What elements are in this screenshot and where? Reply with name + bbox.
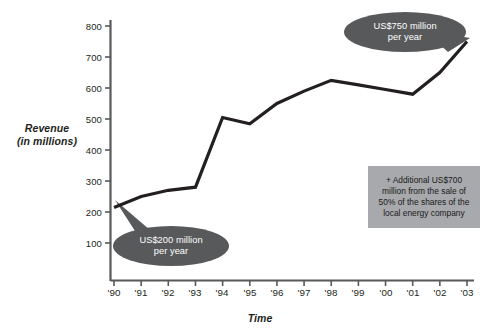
y-tick-label-800: 800 xyxy=(74,21,102,32)
x-tick-label-95: '95 xyxy=(237,287,263,298)
x-tick-label-91: '91 xyxy=(128,287,154,298)
callout-low-label: US$200 million per year xyxy=(113,227,229,265)
note-line4: local energy company xyxy=(379,208,470,219)
y-tick-label-300: 300 xyxy=(74,176,102,187)
y-tick-label-200: 200 xyxy=(74,207,102,218)
x-tick-label-00: '00 xyxy=(373,287,399,298)
x-tick-label-03: '03 xyxy=(454,287,480,298)
note-line2: million from the sale of xyxy=(379,186,470,197)
callout-low-line2: per year xyxy=(139,246,202,258)
additional-revenue-note: + Additional US$700 million from the sal… xyxy=(368,166,480,228)
note-line1: + Additional US$700 xyxy=(379,175,470,186)
y-tick-label-700: 700 xyxy=(74,52,102,63)
y-tick-label-100: 100 xyxy=(74,238,102,249)
x-tick-label-96: '96 xyxy=(264,287,290,298)
x-tick-label-94: '94 xyxy=(209,287,235,298)
y-tick-label-600: 600 xyxy=(74,83,102,94)
revenue-line-chart: 800 700 600 500 400 300 200 100 '90 '91 … xyxy=(0,0,498,332)
x-tick-label-93: '93 xyxy=(182,287,208,298)
x-tick-label-92: '92 xyxy=(155,287,181,298)
callout-low-line1: US$200 million xyxy=(139,235,202,247)
x-axis-title: Time xyxy=(230,312,290,324)
y-axis-title-line1: Revenue xyxy=(8,122,86,135)
x-tick-label-02: '02 xyxy=(427,287,453,298)
y-axis-title: Revenue (in millions) xyxy=(8,122,86,148)
y-axis-title-line2: (in millions) xyxy=(8,135,86,148)
x-tick-label-01: '01 xyxy=(400,287,426,298)
callout-high-label: US$750 million per year xyxy=(344,13,466,51)
note-line3: 50% of the shares of the xyxy=(379,197,470,208)
x-tick-label-97: '97 xyxy=(291,287,317,298)
callout-high-line1: US$750 million xyxy=(373,21,436,33)
callout-high-line2: per year xyxy=(373,32,436,44)
x-tick-label-90: '90 xyxy=(101,287,127,298)
x-tick-label-99: '99 xyxy=(345,287,371,298)
x-tick-label-98: '98 xyxy=(318,287,344,298)
